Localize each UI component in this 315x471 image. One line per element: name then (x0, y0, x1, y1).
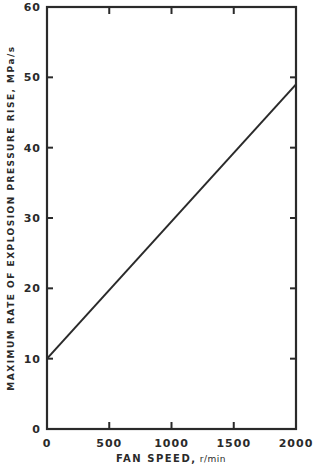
line-chart: 05001000150020000102030405060 FAN SPEED,… (0, 0, 315, 471)
axis-ticks (47, 7, 296, 429)
y-tick-label: 10 (24, 353, 41, 366)
y-tick-label: 60 (24, 1, 41, 14)
x-tick-label: 1500 (216, 437, 251, 450)
x-axis-label: FAN SPEED, r/min (116, 453, 226, 464)
y-tick-label: 30 (24, 212, 41, 225)
y-tick-label: 50 (24, 71, 41, 84)
x-tick-label: 500 (96, 437, 122, 450)
y-tick-label: 0 (32, 423, 41, 436)
x-tick-label: 0 (43, 437, 52, 450)
y-axis-label: MAXIMUM RATE OF EXPLOSION PRESSURE RISE,… (6, 45, 16, 390)
x-tick-label: 1000 (154, 437, 189, 450)
plot-frame (47, 7, 296, 429)
data-line (47, 84, 296, 358)
x-tick-label: 2000 (279, 437, 314, 450)
y-tick-label: 40 (24, 142, 41, 155)
y-tick-label: 20 (24, 282, 41, 295)
